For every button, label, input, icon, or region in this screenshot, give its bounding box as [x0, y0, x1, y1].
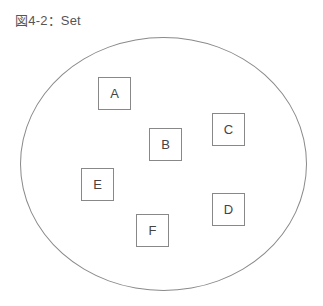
set-boundary-ellipse — [20, 37, 307, 291]
element-label: F — [149, 223, 157, 238]
set-element-b: B — [149, 128, 182, 161]
set-element-f: F — [136, 214, 169, 247]
set-element-c: C — [212, 113, 245, 146]
set-element-a: A — [98, 77, 131, 110]
set-element-d: D — [212, 193, 245, 226]
element-label: B — [161, 137, 170, 152]
element-label: D — [224, 202, 233, 217]
figure-title: 図4-2：Set — [15, 10, 81, 29]
element-label: A — [110, 86, 119, 101]
element-label: C — [224, 122, 233, 137]
set-element-e: E — [81, 168, 114, 201]
element-label: E — [93, 177, 102, 192]
